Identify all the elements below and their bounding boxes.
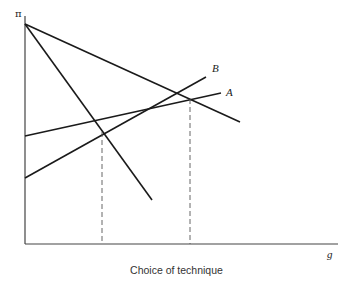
line-b-label: B [212,62,219,74]
y-axis-label: π [15,8,22,19]
line-b [25,77,206,178]
choice-of-technique-diagram [0,0,353,281]
line-a-label: A [226,86,233,98]
x-axis-label: g [327,248,333,260]
line-a [25,93,221,136]
diagram-caption: Choice of technique [0,264,353,276]
line-shallow-decreasing [25,24,240,122]
